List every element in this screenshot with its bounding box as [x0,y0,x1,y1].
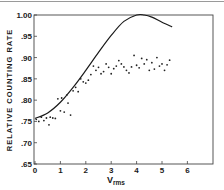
y-tick-label: .90 [21,54,33,63]
x-tick-label: 5 [160,166,165,175]
data-point [93,65,95,67]
data-point [72,90,74,92]
x-axis: 0123456 [33,161,190,175]
data-point [87,79,89,81]
data-point [49,116,51,118]
data-point [66,94,68,96]
data-point [48,124,50,126]
theoretical-curve [35,14,172,118]
data-point [46,117,48,119]
data-point [159,65,161,67]
data-point [57,98,59,100]
data-point [85,82,87,84]
data-point [143,63,145,65]
data-point [82,81,84,83]
data-point [70,114,72,116]
data-point [103,71,105,73]
data-point [138,67,140,69]
x-tick-label: 2 [84,166,89,175]
data-point [153,68,155,70]
x-tick-label: 4 [134,166,139,175]
y-tick-label: 1.00 [16,11,32,20]
data-point [40,116,42,118]
data-point [161,63,163,65]
data-point [128,72,130,74]
data-point [90,74,92,76]
data-point [151,62,153,64]
data-point [146,59,148,61]
data-point [113,68,115,70]
data-point [77,91,79,93]
data-point [131,66,133,68]
x-tick-label: 0 [33,166,38,175]
data-point [118,60,120,62]
x-tick-label: 6 [185,166,190,175]
y-tick-label: .85 [21,75,33,84]
measured-points [35,55,170,126]
data-point [100,73,102,75]
data-point [133,55,135,57]
data-point [166,64,168,66]
data-point [136,64,138,66]
x-tick-label: 3 [109,166,114,175]
y-tick-label: .95 [21,32,33,41]
plot-frame [34,15,213,164]
data-point [95,69,97,71]
data-point [164,69,166,71]
data-point [115,65,117,67]
y-axis-title: RELATIVE COUNTING RATE [5,29,14,152]
chart: .65.70.75.80.85.90.951.00 0123456 RELATI… [0,0,224,190]
y-tick-label: .80 [21,96,33,105]
data-point [105,63,107,65]
data-point [80,78,82,80]
data-point [61,97,63,99]
data-point [52,117,54,119]
data-point [123,66,125,68]
data-point [35,118,37,120]
data-point [156,57,158,59]
data-point [60,110,62,112]
data-point [148,69,150,71]
data-point [43,120,45,122]
data-point [108,66,110,68]
data-point [38,121,40,123]
y-tick-label: .70 [21,139,33,148]
data-point [75,86,77,88]
x-tick-label: 1 [58,166,63,175]
data-point [169,59,171,61]
data-point [110,73,112,75]
data-point [126,69,128,71]
y-tick-label: .75 [21,117,33,126]
data-point [120,63,122,65]
data-point [63,111,65,113]
x-axis-title: Vrms [107,175,125,186]
data-point [54,118,56,120]
data-point [141,58,143,60]
y-tick-label: .65 [21,160,33,169]
data-point [67,102,69,104]
data-point [98,66,100,68]
